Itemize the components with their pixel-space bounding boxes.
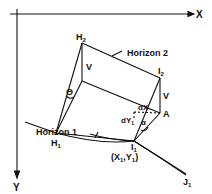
i2-label: I2: [158, 66, 165, 77]
a-label: A: [163, 109, 170, 119]
h2-label: H2: [76, 32, 87, 43]
dy-label: dY1: [121, 116, 134, 126]
theta-label: Θ: [66, 87, 73, 97]
horizon-geometry-diagram: X Y H2 H1 I2 I1 J1 A Horizon 2 Horizon 1…: [0, 0, 212, 194]
y-axis-arrow-icon: [15, 171, 20, 178]
i1-coordinates-label: (X1,Y1): [111, 152, 138, 163]
horizon-2-leader: [112, 51, 122, 56]
h1-label: H1: [51, 138, 62, 149]
y-axis-label: Y: [13, 182, 20, 193]
x-axis-arrow-icon: [188, 12, 194, 17]
diagram-canvas: X Y H2 H1 I2 I1 J1 A Horizon 2 Horizon 1…: [0, 0, 212, 194]
alpha-label: α: [141, 118, 146, 127]
dx-dy-dashed: [134, 112, 160, 120]
base-top-edge: [82, 81, 160, 113]
v-right-label: V: [163, 91, 169, 101]
j1-label: J1: [183, 177, 192, 188]
dx-label: dX: [138, 103, 149, 112]
i1-a-edge: [134, 113, 160, 141]
horizon-2-label: Horizon 2: [127, 48, 168, 58]
x-axis-label: X: [196, 9, 203, 20]
v-left-label: V: [86, 62, 92, 72]
horizon-1-label: Horizon 1: [36, 127, 77, 137]
